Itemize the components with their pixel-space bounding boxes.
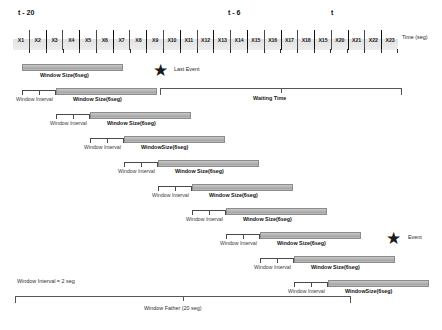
time-tick (147, 49, 164, 54)
time-cell: X17 (282, 30, 299, 50)
window-size-bar (294, 256, 395, 263)
window-size-bar (158, 160, 259, 167)
time-cell: X12 (198, 30, 215, 50)
time-cell: X23 (382, 30, 398, 50)
window-size-bar (192, 184, 293, 191)
time-tick (30, 49, 47, 54)
time-cell: X14 (231, 30, 248, 50)
time-marker-t-minus-20: t - 20 (18, 9, 34, 16)
window-size-label: Window Size(6seg) (243, 216, 292, 222)
window-size-label: WindowSize(6seg) (345, 288, 392, 294)
time-tick (297, 49, 314, 54)
window-size-bar (90, 112, 191, 119)
window-size-bar (260, 232, 361, 239)
window-interval-label: Window Interval (254, 264, 291, 270)
time-cell: X6 (97, 30, 114, 50)
time-cell: X15 (315, 30, 332, 50)
window-size-bar (328, 280, 429, 287)
time-tick (63, 49, 80, 54)
time-tick (80, 49, 97, 54)
time-tick (381, 49, 398, 54)
window-size-label: Window Size(6seg) (73, 96, 122, 102)
time-tick (113, 49, 130, 54)
time-marker-t: t (331, 9, 333, 16)
time-cell: X20 (332, 30, 349, 50)
time-tick (180, 49, 197, 54)
time-tick (314, 49, 331, 54)
window-interval-label: Window Interval (84, 144, 121, 150)
window-size-label: Window Size(6seg) (175, 168, 224, 174)
event-star-icon: ★ (386, 230, 401, 247)
window-father-bracket (15, 296, 351, 304)
time-cell: X18 (298, 30, 315, 50)
time-cell: X21 (349, 30, 366, 50)
time-tick (130, 49, 147, 54)
window-size-bar (124, 136, 225, 143)
window-size-bar (56, 88, 157, 95)
time-cell: X2 (30, 30, 47, 50)
time-tick (13, 49, 30, 54)
time-cell: X13 (214, 30, 231, 50)
window-interval-label: Window Interval (50, 120, 87, 126)
window-interval-note: Window Interval = 2 seg (17, 278, 75, 284)
last-event-star-icon: ★ (153, 62, 168, 79)
window-size-bar (22, 64, 123, 71)
time-marker-t-minus-6: t - 6 (228, 9, 240, 16)
window-interval-label: Window Interval (152, 192, 189, 198)
window-interval-label: Window Interval (16, 96, 53, 102)
window-interval-label: Window Interval (186, 216, 223, 222)
window-size-label: Window Size(6seg) (107, 120, 156, 126)
time-cell: X8 (130, 30, 147, 50)
time-axis-cells: X1X2X3X4X5X6X7X8X9X10X11X12X13X14X15X16X… (13, 30, 398, 50)
window-size-label: WindowSize(6seg) (141, 144, 188, 150)
window-interval-label: Window Interval (118, 168, 155, 174)
time-tick (247, 49, 264, 54)
time-cell: X11 (181, 30, 198, 50)
time-cell: X7 (114, 30, 131, 50)
window-size-bar (226, 208, 327, 215)
time-tick (197, 49, 214, 54)
time-cell: X22 (365, 30, 382, 50)
window-interval-label: Window Interval (220, 240, 257, 246)
window-size-label: Window Size(6seg) (277, 240, 326, 246)
time-tick (46, 49, 63, 54)
time-tick (331, 49, 348, 54)
time-cell: X9 (147, 30, 164, 50)
time-tick (214, 49, 231, 54)
last-event-label: Last Event (174, 66, 199, 72)
window-size-label: Window Size(6seg) (311, 264, 360, 270)
timeline-diagram: t - 20 t - 6 t X1X2X3X4X5X6X7X8X9X10X11X… (0, 0, 442, 330)
time-cell: X3 (47, 30, 64, 50)
time-tick (231, 49, 248, 54)
time-axis: X1X2X3X4X5X6X7X8X9X10X11X12X13X14X15X16X… (13, 30, 398, 50)
time-cell: X10 (164, 30, 181, 50)
time-tick (281, 49, 298, 54)
time-cell: X1 (13, 30, 30, 50)
time-tick (348, 49, 365, 54)
event-label: Event (408, 234, 422, 240)
window-interval-label: Window Interval (288, 288, 325, 294)
time-cell: X16 (265, 30, 282, 50)
time-cell: X5 (80, 30, 97, 50)
time-axis-ticks (13, 49, 398, 54)
waiting-time-label: Waiting Time (253, 95, 286, 101)
window-father-label: Window Father (20 seg) (144, 305, 202, 311)
time-tick (97, 49, 114, 54)
window-size-label: Window Size(6seg) (40, 72, 89, 78)
time-tick (264, 49, 281, 54)
time-cell: X4 (63, 30, 80, 50)
time-tick (364, 49, 381, 54)
window-size-label: Window Size(6seg) (209, 192, 258, 198)
time-axis-label: Time (seg) (402, 34, 428, 40)
time-cell: X15 (248, 30, 265, 50)
time-tick (164, 49, 181, 54)
